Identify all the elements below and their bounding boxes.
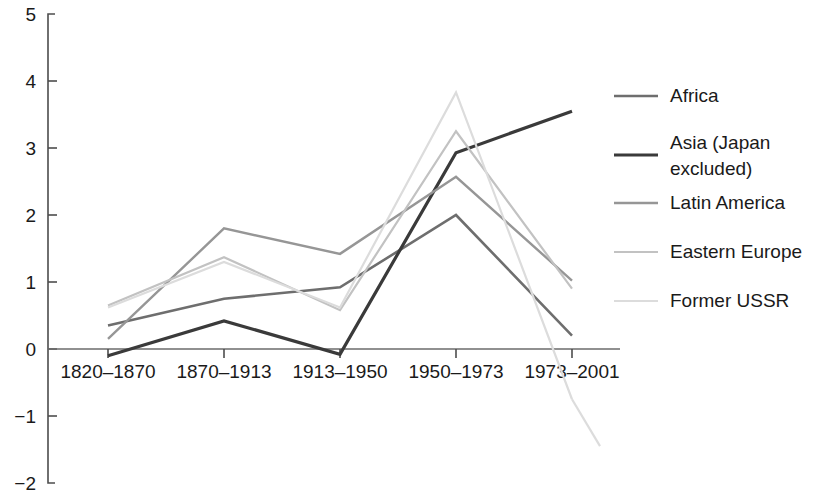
y-axis-spine [48,14,55,483]
data-series-group [108,92,600,446]
x-tick-label: 1913–1950 [292,361,387,382]
legend-label-asia-japan-excluded: excluded) [670,158,752,179]
chart-canvas: 543210−1−2 1820–18701870–19131913–195019… [0,0,817,496]
legend-label-eastern-europe: Eastern Europe [670,241,802,262]
series-line-eastern-europe [108,131,572,310]
chart-legend: AfricaAsia (Japanexcluded)Latin AmericaE… [614,85,802,311]
y-tick-label: −2 [14,473,36,494]
legend-label-latin-america: Latin America [670,192,786,213]
y-axis: 543210−1−2 [14,4,57,494]
y-tick-label: 5 [25,4,36,25]
y-tick-label: 0 [25,339,36,360]
y-tick-label: 2 [25,205,36,226]
line-chart: 543210−1−2 1820–18701870–19131913–195019… [0,0,817,496]
y-tick-label: −1 [14,406,36,427]
legend-label-africa: Africa [670,85,719,106]
series-line-former-ussr-tail [572,399,600,446]
x-tick-label: 1950–1973 [408,361,503,382]
x-tick-label: 1870–1913 [176,361,271,382]
y-tick-label: 4 [25,71,36,92]
x-tick-label: 1973–2001 [524,361,619,382]
x-axis-tick-labels: 1820–18701870–19131913–19501950–19731973… [60,361,619,382]
y-tick-label: 1 [25,272,36,293]
legend-label-former-ussr: Former USSR [670,290,789,311]
legend-label-asia-japan-excluded: Asia (Japan [670,132,770,153]
y-axis-ticks [48,81,57,416]
series-line-asia-japan-excluded [108,111,572,356]
y-tick-label: 3 [25,138,36,159]
series-line-africa [108,215,572,336]
y-axis-tick-labels: 543210−1−2 [14,4,36,494]
series-line-latin-america [108,177,572,339]
x-tick-label: 1820–1870 [60,361,155,382]
